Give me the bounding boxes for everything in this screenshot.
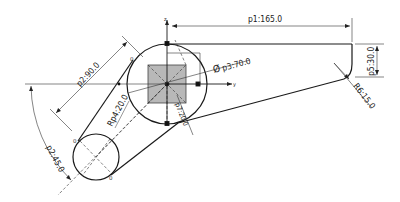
point-marker-b: 0 [73,138,77,144]
y-axis-label: y [233,81,236,88]
dim-p2-angle-label: p2:45.0 [44,143,67,174]
dim-p6-label: R6:15.0 [351,81,377,111]
right-edge-fillet [344,44,352,79]
dim-p5-label: p5:30.0 [366,47,376,76]
point-marker-c: 0 [109,175,113,181]
dim-p2-length [50,36,143,131]
dim-p3-label: p3:70.0 [221,56,252,73]
dim-p2-angle [25,84,167,180]
dim-p1-label: p1:165.0 [248,14,282,24]
dim-p3-symbol: Ø [212,62,222,74]
z-axis-label: z [164,16,167,22]
cad-sketch: z y p1:165.0 p5:30.0 R6:15.0 Ø p3:70.0 p… [0,0,400,202]
intersection-point [118,83,121,86]
point-marker-a: 0 [130,56,134,62]
